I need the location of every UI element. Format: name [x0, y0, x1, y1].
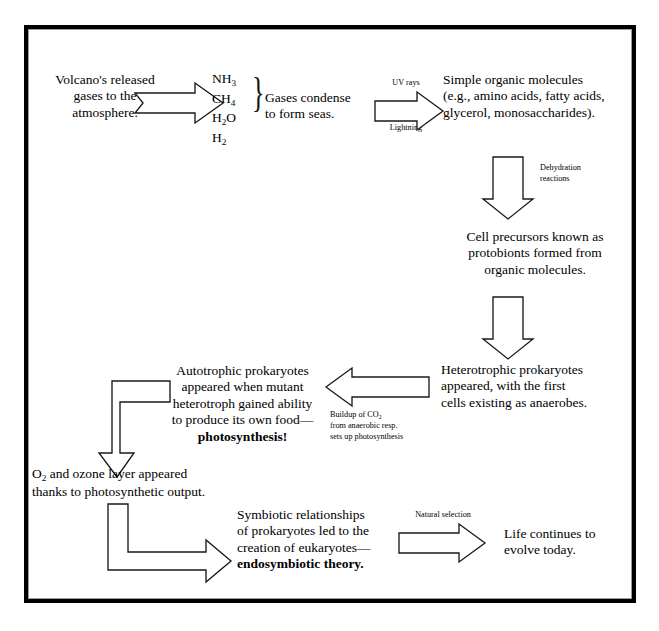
- label-co2-buildup: Buildup of CO2from anaerobic resp.sets u…: [330, 410, 440, 443]
- formula-h2: H2: [212, 130, 226, 145]
- arrow-heterotrophs-to-autotrophs: [326, 367, 436, 413]
- arrow-ozone-to-symbiosis: [108, 504, 238, 582]
- ozone-line1: O2 and ozone layer appeared: [32, 466, 187, 481]
- node-ozone-layer: O2 and ozone layer appearedthanks to pho…: [32, 466, 247, 500]
- arrow-protobionts-to-heterotrophs: [483, 297, 543, 361]
- arrow-organic-to-protobionts: [483, 157, 543, 221]
- formula-ch4: CH4: [212, 91, 235, 106]
- label-uv-rays: UV rays: [378, 78, 434, 89]
- node-gases-formula: NH3 CH4 H2O H2: [212, 70, 236, 148]
- node-heterotrophic-prokaryotes: Heterotrophic prokaryotes appeared, with…: [441, 362, 636, 411]
- arrow-symbiosis-to-life: [399, 524, 504, 570]
- formula-h2o: H2O: [212, 110, 236, 125]
- curly-brace: }: [252, 71, 265, 113]
- node-simple-organic-molecules: Simple organic molecules (e.g., amino ac…: [443, 72, 628, 121]
- co2-line1: Buildup of CO2: [330, 410, 381, 419]
- symbiosis-bold: endosymbiotic theory.: [237, 556, 407, 572]
- ozone-line2: thanks to photosynthetic output.: [32, 484, 205, 499]
- node-symbiotic-relationships: Symbiotic relationships of prokaryotes l…: [237, 507, 407, 573]
- label-dehydration-reactions: Dehydration reactions: [540, 163, 620, 185]
- node-gases-condense: Gases condense to form seas.: [265, 90, 380, 123]
- co2-line2: from anaerobic resp.: [330, 421, 398, 430]
- formula-nh3: NH3: [212, 71, 236, 86]
- node-cell-precursors-protobionts: Cell precursors known as protobionts for…: [440, 229, 630, 278]
- label-natural-selection: Natural selection: [403, 510, 483, 521]
- node-life-continues: Life continues to evolve today.: [504, 526, 624, 559]
- symbiosis-text: Symbiotic relationships of prokaryotes l…: [237, 507, 370, 555]
- co2-line3: sets up photosynthesis: [330, 432, 403, 441]
